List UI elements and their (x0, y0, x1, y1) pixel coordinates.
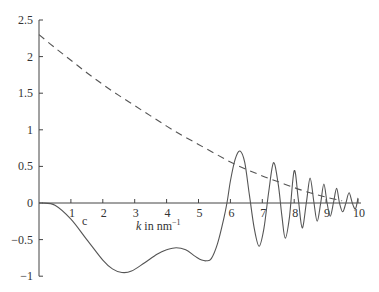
y-tick-label: 2.5 (18, 13, 33, 27)
x-axis-label: k in nm−1 (136, 218, 181, 233)
x-tick-label: 8 (292, 206, 298, 220)
x-tick-label: 3 (133, 206, 139, 220)
dashed-series-line (39, 35, 342, 201)
x-tick-label: 2 (101, 206, 107, 220)
y-axis: −1−0.500.511.522.5 (11, 13, 43, 283)
y-tick-label: −1 (20, 269, 33, 283)
x-axis-label-unit: in nm (141, 219, 172, 233)
curve-annotation-c: c (82, 214, 87, 228)
x-tick-label: 6 (228, 206, 234, 220)
y-tick-label: 2 (27, 50, 33, 64)
x-axis-label-exponent: −1 (172, 218, 181, 227)
y-tick-label: 1 (27, 123, 33, 137)
y-tick-label: 1.5 (18, 86, 33, 100)
chart: −1−0.500.511.522.5 12345678910 c k in nm… (0, 0, 379, 292)
x-tick-label: 5 (197, 206, 203, 220)
y-tick-label: 0.5 (18, 159, 33, 173)
y-tick-label: −0.5 (11, 233, 33, 247)
x-tick-label: 4 (165, 206, 171, 220)
y-tick-label: 0 (27, 196, 33, 210)
